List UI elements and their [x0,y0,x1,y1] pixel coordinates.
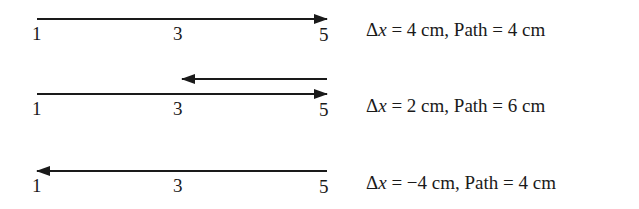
caption-values: = 2 cm, Path = 6 cm [387,95,546,116]
tick-label-3: 3 [173,176,183,195]
tick-label-3: 3 [173,24,183,43]
variable-x: x [378,172,386,193]
tick-label-1: 1 [32,24,42,43]
tick-label-1: 1 [32,99,42,118]
variable-x: x [378,95,386,116]
caption-values: = 4 cm, Path = 4 cm [387,19,546,40]
caption-displacement-path: Δx = 4 cm, Path = 4 cm [366,20,545,39]
variable-x: x [378,19,386,40]
caption-displacement-path: Δx = −4 cm, Path = 4 cm [366,173,556,192]
tick-label-5: 5 [319,100,329,119]
delta-symbol: Δ [366,95,378,116]
tick-label-5: 5 [319,25,329,44]
delta-symbol: Δ [366,19,378,40]
tick-label-3: 3 [173,99,183,118]
tick-label-5: 5 [319,177,329,196]
delta-symbol: Δ [366,172,378,193]
caption-values: = −4 cm, Path = 4 cm [387,172,556,193]
tick-label-1: 1 [32,176,42,195]
caption-displacement-path: Δx = 2 cm, Path = 6 cm [366,96,545,115]
